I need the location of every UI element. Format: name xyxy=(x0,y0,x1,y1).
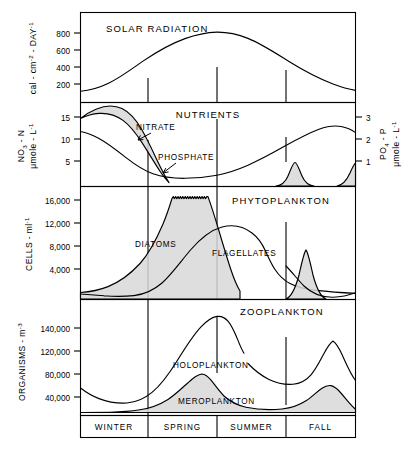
plankton-seasonal-cycle-figure: 800 600 400 200 cal - cm-2 - DAY-1 SOLAR… xyxy=(0,0,409,460)
series-label-phosphate: PHOSPHATE xyxy=(158,153,214,162)
tick-label: 800 xyxy=(56,30,70,39)
panel-phytoplankton-axis-title: CELLS - ml-1 xyxy=(23,217,35,271)
panel-nutrients-yaxis-left: 15 10 5 xyxy=(61,114,81,167)
panel-nutrients-yaxis-right: 3 2 1 xyxy=(356,114,372,167)
panel-zooplankton-axis-title: ORGANISMS - m-3 xyxy=(16,323,28,401)
svg-text:μmole - L-1: μmole - L-1 xyxy=(27,123,39,169)
tick-label: 16,000 xyxy=(45,197,70,206)
svg-text:μmole - L-1: μmole - L-1 xyxy=(390,121,402,167)
panel-nutrients-axis-title-b: μmole - L-1 xyxy=(27,123,39,169)
curve-solar-radiation xyxy=(81,32,356,91)
area-meroplankton xyxy=(81,374,356,413)
panel-phytoplankton: 16,000 12,000 8,000 4,000 CELLS - ml-1 P… xyxy=(23,187,356,300)
panel-solar-season-dividers xyxy=(148,67,286,102)
panel-nutrients-axis-title-a: NO3 - N xyxy=(16,130,28,163)
tick-label: 2 xyxy=(366,136,371,145)
panel-zooplankton: 140,000 120,000 80,000 40,000 ORGANISMS … xyxy=(16,300,356,416)
svg-text:NO3 - N: NO3 - N xyxy=(16,130,28,163)
panel-title-zooplankton: ZOOPLANKTON xyxy=(240,306,324,317)
panel-title-solar: SOLAR RADIATION xyxy=(106,23,208,34)
tick-label: 80,000 xyxy=(45,371,70,380)
tick-label: 1 xyxy=(366,158,371,167)
panel-phytoplankton-yaxis: 16,000 12,000 8,000 4,000 xyxy=(45,197,81,275)
tick-label: 40,000 xyxy=(45,394,70,403)
tick-label: 10 xyxy=(61,136,71,145)
season-label-fall: FALL xyxy=(309,423,332,432)
series-label-holoplankton: HOLOPLANKTON xyxy=(173,361,249,370)
series-label-meroplankton: MEROPLANKTON xyxy=(178,397,255,406)
tick-label: 15 xyxy=(61,114,71,123)
tick-label: 120,000 xyxy=(40,348,70,357)
panel-nutrients-right-axis-title-b: μmole - L-1 xyxy=(390,121,402,167)
arrow-phosphate xyxy=(163,163,176,173)
series-label-flagellates: FLAGELLATES xyxy=(212,249,276,258)
peak-fall-bloom-nutrients-1 xyxy=(276,163,314,187)
season-axis-strip: WINTER SPRING SUMMER FALL xyxy=(81,416,356,438)
panel-nutrients: 15 10 5 3 2 1 NO3 - N μmole - L-1 xyxy=(16,103,401,187)
tick-label: 5 xyxy=(65,158,70,167)
band-nitrate xyxy=(81,106,170,183)
tick-label: 600 xyxy=(56,47,70,56)
panel-nutrients-right-axis-title-a: PO4 - P xyxy=(378,128,390,160)
peak-fall-bloom-nutrients-2 xyxy=(337,163,356,186)
panel-title-phytoplankton: PHYTOPLANKTON xyxy=(232,195,330,206)
series-label-nitrate: NITRATE xyxy=(136,123,175,132)
tick-label: 3 xyxy=(366,114,371,123)
tick-label: 400 xyxy=(56,64,70,73)
season-label-summer: SUMMER xyxy=(230,423,272,432)
tick-label: 140,000 xyxy=(40,325,70,334)
panel-title-nutrients: NUTRIENTS xyxy=(176,109,240,120)
panel-solar-radiation: 800 600 400 200 cal - cm-2 - DAY-1 SOLAR… xyxy=(27,13,356,103)
season-label-winter: WINTER xyxy=(95,423,133,432)
svg-text:PO4 - P: PO4 - P xyxy=(378,128,390,160)
tick-label: 4,000 xyxy=(50,266,71,275)
series-label-diatoms: DIATOMS xyxy=(135,240,176,249)
panel-solar-yaxis: 800 600 400 200 xyxy=(56,30,80,90)
panel-solar-axis-title: cal - cm-2 - DAY-1 xyxy=(27,22,39,95)
curve-holoplankton-summer xyxy=(248,341,356,384)
panel-zooplankton-yaxis: 140,000 120,000 80,000 40,000 xyxy=(40,325,80,403)
season-label-spring: SPRING xyxy=(164,423,201,432)
svg-text:CELLS - ml-1: CELLS - ml-1 xyxy=(23,217,35,271)
svg-text:ORGANISMS - m-3: ORGANISMS - m-3 xyxy=(16,323,28,401)
figure-canvas: 800 600 400 200 cal - cm-2 - DAY-1 SOLAR… xyxy=(0,0,409,460)
tick-label: 8,000 xyxy=(50,243,71,252)
tick-label: 200 xyxy=(56,81,70,90)
curve-phosphate xyxy=(81,126,356,178)
svg-text:cal - cm-2 - DAY-1: cal - cm-2 - DAY-1 xyxy=(27,22,39,95)
tick-label: 12,000 xyxy=(45,220,70,229)
area-fall-diatom-bloom xyxy=(286,250,326,299)
